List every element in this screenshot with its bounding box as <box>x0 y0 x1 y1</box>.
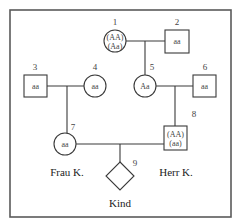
genotype-text: (AA) <box>107 33 124 42</box>
genotype-text: (AA) <box>167 130 184 139</box>
person-name-label: Frau K. <box>50 166 84 178</box>
genotype-text: aa <box>61 140 69 149</box>
individual-number: 8 <box>192 109 197 119</box>
genotype-text: aa <box>91 82 99 91</box>
genotype-text: Aa <box>140 82 150 91</box>
genotype-text: (aa) <box>169 139 182 148</box>
person-name-label: Herr K. <box>159 166 193 178</box>
individual-number: 3 <box>33 62 38 72</box>
individual-number: 7 <box>71 122 76 132</box>
individual-number: 2 <box>175 17 180 27</box>
genotype-text: (Aa) <box>108 42 123 51</box>
individual-number: 1 <box>113 17 118 27</box>
individual-number: 9 <box>133 158 138 168</box>
genotype-text: aa <box>32 82 40 91</box>
individual-number: 6 <box>203 62 208 72</box>
genotype-text: aa <box>173 37 181 46</box>
individual-number: 5 <box>150 62 155 72</box>
genotype-text: aa <box>201 82 209 91</box>
pedigree-diagram: 1 (AA) (Aa) 2 aa 3 aa 4 aa 5 Aa 6 aa 7 a… <box>0 0 238 223</box>
person-name-label: Kind <box>109 197 132 209</box>
individual-number: 4 <box>93 62 98 72</box>
